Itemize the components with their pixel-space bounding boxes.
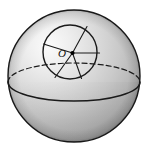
center-point-label: O [58, 47, 66, 59]
center-point-marker [70, 51, 74, 55]
sphere-lower-shading [8, 82, 140, 142]
sphere-figure-container: O [0, 0, 147, 151]
sphere-diagram: O [0, 0, 147, 151]
